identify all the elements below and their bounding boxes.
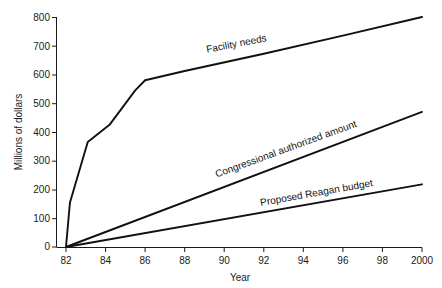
x-tick-label-2000: 2000 bbox=[411, 255, 434, 266]
y-tick-label-800: 800 bbox=[33, 12, 50, 23]
chart-container: Millions of dollars 800 700 600 500 400 … bbox=[0, 0, 442, 288]
y-tick-label-400: 400 bbox=[33, 127, 50, 138]
y-tick-label-700: 700 bbox=[33, 41, 50, 52]
y-tick-label-100: 100 bbox=[33, 213, 50, 224]
x-tick-label-82: 82 bbox=[60, 255, 72, 266]
y-tick-label-0: 0 bbox=[44, 241, 50, 252]
y-tick-label-500: 500 bbox=[33, 98, 50, 109]
y-tick-label-200: 200 bbox=[33, 184, 50, 195]
y-axis-title: Millions of dollars bbox=[13, 94, 24, 171]
y-axis-ticks bbox=[52, 18, 57, 248]
y-tick-label-300: 300 bbox=[33, 155, 50, 166]
x-tick-label-88: 88 bbox=[179, 255, 191, 266]
x-tick-label-84: 84 bbox=[100, 255, 112, 266]
series-line-proposed-reagan-budget bbox=[66, 184, 422, 247]
x-tick-label-94: 94 bbox=[298, 255, 310, 266]
x-tick-label-86: 86 bbox=[140, 255, 152, 266]
series-label-congressional-authorized-amount: Congressional authorized amount bbox=[214, 118, 358, 180]
line-chart: Millions of dollars 800 700 600 500 400 … bbox=[0, 0, 442, 288]
x-tick-label-92: 92 bbox=[258, 255, 270, 266]
x-tick-label-96: 96 bbox=[337, 255, 349, 266]
x-tick-label-90: 90 bbox=[219, 255, 231, 266]
x-axis-title: Year bbox=[230, 272, 251, 283]
series-label-facility-needs: Facility needs bbox=[205, 32, 267, 54]
x-tick-label-98: 98 bbox=[377, 255, 389, 266]
y-tick-label-600: 600 bbox=[33, 69, 50, 80]
x-axis-ticks bbox=[66, 248, 422, 253]
